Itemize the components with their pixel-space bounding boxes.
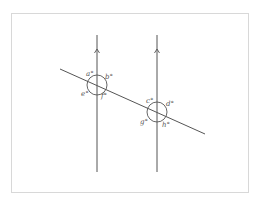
angle-label-d: d° [166,100,174,108]
angle-label-e: e° [81,90,89,98]
angle-label-g: g° [140,118,148,126]
transversal-line [60,69,205,134]
angle-label-c: c° [146,97,153,105]
diagram-canvas: a° b° e° f° c° d° g° h° [0,0,259,209]
angle-label-a: a° [86,70,94,78]
angle-label-b: b° [105,73,113,81]
angle-label-h: h° [162,121,170,129]
angle-label-f: f° [100,92,107,100]
